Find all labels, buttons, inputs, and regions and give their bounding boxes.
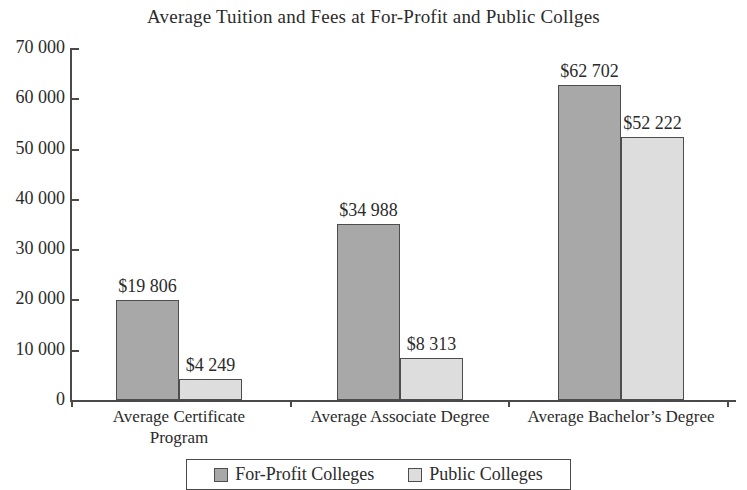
- y-axis-tick-label: 60 000: [16, 87, 66, 108]
- legend-swatch-icon: [408, 468, 422, 482]
- x-axis-line: [70, 400, 736, 402]
- legend-swatch-icon: [214, 468, 228, 482]
- bar: [179, 379, 242, 400]
- y-axis-tick-mark: [71, 199, 79, 201]
- legend-item[interactable]: For-Profit Colleges: [214, 464, 374, 485]
- bar-value-label: $8 313: [407, 334, 457, 355]
- y-axis-tick-mark: [71, 149, 79, 151]
- bar: [337, 224, 400, 400]
- bar: [116, 300, 179, 400]
- y-axis-tick-label: 10 000: [16, 339, 66, 360]
- legend-item[interactable]: Public Colleges: [408, 464, 543, 485]
- y-axis-tick-label: 20 000: [16, 288, 66, 309]
- y-axis-tick-mark: [71, 48, 79, 50]
- x-axis-category-label: Average Bachelor’s Degree: [511, 406, 731, 427]
- bar: [400, 358, 463, 400]
- y-axis-tick-label: 40 000: [16, 188, 66, 209]
- bar-value-label: $19 806: [118, 276, 177, 297]
- y-axis-tick-mark: [71, 350, 79, 352]
- y-axis-tick-mark: [71, 249, 79, 251]
- bar-value-label: $34 988: [339, 200, 398, 221]
- plot-area: 010 00020 00030 00040 00050 00060 00070 …: [71, 48, 735, 400]
- x-axis-category-label: Average Associate Degree: [290, 406, 510, 427]
- bar: [621, 137, 684, 400]
- bar-value-label: $52 222: [623, 113, 682, 134]
- x-axis-category-label: Average Certificate Program: [69, 406, 289, 448]
- bar-value-label: $62 702: [560, 61, 619, 82]
- y-axis-tick-label: 30 000: [16, 238, 66, 259]
- chart-legend: For-Profit CollegesPublic Colleges: [186, 459, 571, 490]
- bar-value-label: $4 249: [186, 355, 236, 376]
- chart-title: Average Tuition and Fees at For-Profit a…: [0, 6, 747, 28]
- legend-label: Public Colleges: [429, 464, 543, 485]
- y-axis-tick-mark: [71, 98, 79, 100]
- y-axis-tick-label: 0: [56, 389, 65, 410]
- y-axis-tick-label: 70 000: [16, 37, 66, 58]
- y-axis-line: [70, 48, 72, 401]
- bar: [558, 85, 621, 400]
- legend-label: For-Profit Colleges: [235, 464, 374, 485]
- y-axis-tick-label: 50 000: [16, 138, 66, 159]
- y-axis-tick-mark: [71, 299, 79, 301]
